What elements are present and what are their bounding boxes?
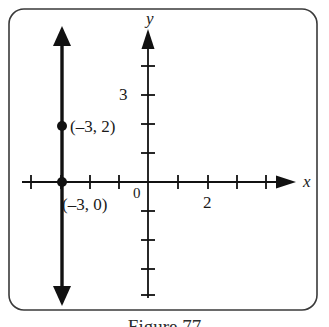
x-axis-label: x xyxy=(303,173,311,190)
point-label-negative3-2: (–3, 2) xyxy=(70,118,115,135)
figure-caption: Figure 77 xyxy=(0,316,329,327)
coordinate-plane-graphic xyxy=(0,0,329,327)
x-tick-label-2: 2 xyxy=(203,194,212,211)
figure-container: y x 3 2 0 (–3, 2) (–3, 0) Figure 77 xyxy=(0,0,329,327)
y-axis-label: y xyxy=(146,10,154,27)
point-label-negative3-0: (–3, 0) xyxy=(62,196,107,213)
plotted-point-negative3-0 xyxy=(57,177,67,187)
y-tick-label-3: 3 xyxy=(119,86,128,103)
origin-label: 0 xyxy=(133,186,141,201)
figure-border xyxy=(9,9,317,310)
plotted-point-negative3-2 xyxy=(57,121,67,131)
